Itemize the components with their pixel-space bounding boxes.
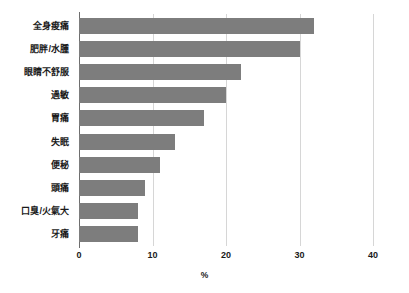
category-label: 胃痛 — [0, 110, 74, 126]
category-label: 牙痛 — [0, 226, 74, 242]
category-label: 失眠 — [0, 134, 74, 150]
category-label: 眼睛不舒服 — [0, 64, 74, 80]
category-label: 頭痛 — [0, 180, 74, 196]
category-label: 過敏 — [0, 87, 74, 103]
x-tick-label: 0 — [59, 250, 99, 260]
x-tick-label: 20 — [206, 250, 246, 260]
x-tick-label: 30 — [280, 250, 320, 260]
x-tick-label: 10 — [133, 250, 173, 260]
bar-chart: % 全身痠痛肥胖/水腫眼睛不舒服過敏胃痛失眠便秘頭痛口臭/火氣大牙痛010203… — [0, 0, 409, 293]
gridline-40 — [373, 14, 374, 246]
gridline-30 — [300, 14, 301, 246]
bar — [79, 157, 160, 173]
bar — [79, 18, 314, 34]
x-axis-label: % — [0, 270, 409, 280]
bar — [79, 226, 138, 242]
category-label: 口臭/火氣大 — [0, 203, 74, 219]
bar — [79, 203, 138, 219]
bar — [79, 87, 226, 103]
bar — [79, 180, 145, 196]
category-label: 便秘 — [0, 157, 74, 173]
bar — [79, 41, 300, 57]
x-tick-label: 40 — [353, 250, 393, 260]
bar — [79, 110, 204, 126]
category-label: 全身痠痛 — [0, 18, 74, 34]
category-label: 肥胖/水腫 — [0, 41, 74, 57]
bar — [79, 64, 241, 80]
bar — [79, 134, 175, 150]
